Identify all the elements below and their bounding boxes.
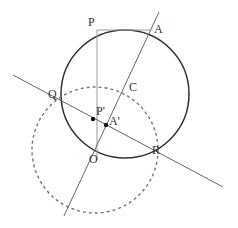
label-p-prime: P': [96, 104, 105, 118]
point-a-prime: [104, 123, 108, 127]
label-a-prime: A': [109, 114, 120, 128]
label-p: P: [88, 15, 95, 29]
point-p-prime: [91, 117, 95, 121]
geometry-figure: P A C Q P' A' O R: [0, 0, 238, 228]
label-q: Q: [48, 87, 57, 101]
label-c: C: [129, 80, 137, 94]
label-a: A: [154, 22, 163, 36]
solid-circle: [61, 30, 189, 158]
label-r: R: [152, 143, 160, 157]
label-o: O: [89, 152, 98, 166]
diagram-canvas: P A C Q P' A' O R: [0, 0, 238, 228]
